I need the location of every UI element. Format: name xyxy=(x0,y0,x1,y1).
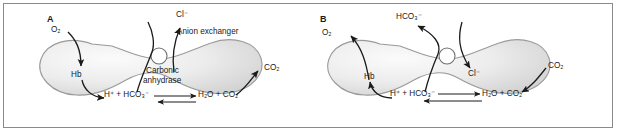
anion-exchanger-channel-a xyxy=(151,48,167,64)
label-reaction-left-a: H⁺ + HCO₃⁻ xyxy=(104,90,149,99)
label-cl-b: Cl⁻ xyxy=(468,69,480,78)
label-o2-a: O₂ xyxy=(51,25,61,34)
label-o2-b: O₂ xyxy=(322,28,332,37)
label-carbonic-anhydrase-line1-a: Carbonic xyxy=(146,66,179,75)
figure-root: A xyxy=(0,0,617,132)
panel-b: B xyxy=(308,0,616,132)
panel-b-graphics xyxy=(308,0,616,132)
label-reaction-left-b: H⁺ + HCO₃⁻ xyxy=(390,89,435,98)
label-co2-a: CO₂ xyxy=(264,63,279,72)
label-bicarbonate-b: HCO₃⁻ xyxy=(396,12,422,21)
label-co2-b: CO₂ xyxy=(548,61,563,70)
anion-exchanger-channel-b xyxy=(439,48,455,64)
label-reaction-right-a: H₂O + CO₂ xyxy=(198,90,238,99)
panel-a: A xyxy=(0,0,308,132)
label-carbonic-anhydrase-line2-a: anhydrase xyxy=(143,76,181,85)
label-anion-exchanger-a: Anion exchanger xyxy=(177,27,238,36)
label-hb-b: Hb xyxy=(364,72,374,81)
label-cl-a: Cl⁻ xyxy=(176,10,188,19)
label-hb-a: Hb xyxy=(71,70,81,79)
label-reaction-right-b: H₂O + CO₂ xyxy=(482,89,522,98)
